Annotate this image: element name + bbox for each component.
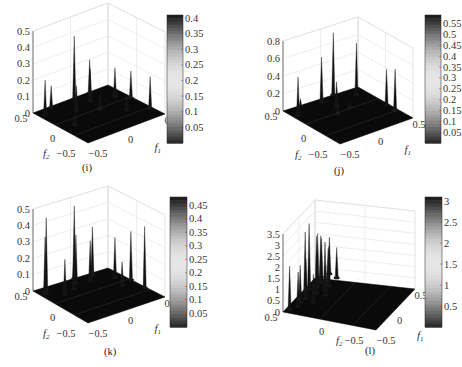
colorbar-tick-label: 0.5 (444, 301, 457, 312)
f2-tick-label: 0.5 (14, 113, 27, 124)
f2-axis-label: f2 (43, 147, 50, 161)
colorbar-i: 0.050.10.150.20.250.30.350.4 (167, 13, 203, 144)
colorbar-tick-label: 1 (444, 280, 449, 291)
colorbar-tick-label: 0.25 (443, 83, 461, 94)
f2-tick-label: 0.5 (264, 111, 277, 122)
colorbar-tick-label: 0.35 (443, 62, 461, 73)
z-tick-label: 0.1 (17, 91, 30, 102)
z-tick-label: 0.3 (17, 236, 30, 247)
f1-tick-label: −0.5 (88, 148, 107, 159)
z-tick-label: 0.5 (17, 26, 30, 37)
f2-tick-label: 0 (301, 133, 306, 144)
colorbar-tick-label: 0.5 (443, 29, 456, 40)
f2-axis-label: f2 (295, 148, 302, 162)
caption-j: (j) (334, 165, 344, 176)
z-tick-label: 0.2 (17, 253, 30, 264)
surface-floor (283, 278, 415, 330)
f1-tick-label: −0.5 (376, 335, 395, 346)
f2-tick-label: −0.5 (308, 149, 327, 160)
f1-axis-label: f1 (155, 322, 162, 336)
f1-tick-label: 0 (397, 315, 402, 326)
colorbar-k: 0.050.10.150.20.250.30.350.40.45 (170, 197, 207, 328)
z-tick-label: 0.5 (17, 204, 30, 215)
colorbar-tick-label: 0.15 (185, 91, 203, 102)
colorbar-tick-label: 0.35 (189, 227, 207, 238)
colorbar-tick-label: 2 (444, 238, 449, 249)
colorbar-tick-label: 0.25 (189, 254, 207, 265)
f2-tick-label: 0.5 (14, 291, 27, 302)
colorbar-tick-label: 0.45 (189, 200, 207, 211)
f1-axis-label: f1 (417, 329, 424, 343)
f2-tick-label: 0 (319, 326, 324, 337)
colorbar-tick-label: 0.2 (443, 94, 456, 105)
colorbar-tick-label: 2.5 (444, 217, 457, 228)
z-tick-label: 0.8 (267, 36, 280, 47)
colorbar-tick-label: 0.15 (443, 105, 461, 116)
colorbar-tick-label: 0.1 (443, 116, 456, 127)
colorbar-tick-label: 0.3 (443, 72, 456, 83)
f1-axis-label: f1 (155, 141, 162, 155)
caption-i: (i) (82, 162, 92, 173)
colorbar-tick-label: 0.1 (189, 294, 202, 305)
colorbar-tick-label: 3 (444, 196, 449, 207)
z-tick-label: 2 (275, 262, 280, 273)
caption-l: (l) (365, 345, 375, 356)
colorbar-tick-label: 0.25 (185, 59, 203, 70)
f2-tick-label: −0.5 (344, 335, 363, 346)
colorbar-tick-label: 0.4 (443, 51, 457, 62)
f2-tick-label: −0.5 (56, 148, 75, 159)
panel-l: 00.511.522.533.50.50−0.5−0.500.5f2f10.51… (264, 196, 457, 348)
figure-canvas: 00.10.20.30.40.50.50−0.5−0.500.5f2f10.05… (0, 0, 462, 367)
colorbar-tick-label: 0.1 (185, 106, 198, 117)
panel-i: 00.10.20.30.40.50.50−0.5−0.500.5f2f10.05… (14, 3, 203, 161)
colorbar-tick-label: 0.4 (189, 213, 203, 224)
colorbar-j: 0.050.10.150.20.250.30.350.40.450.50.55 (425, 15, 461, 144)
colorbar-tick-label: 0.35 (185, 28, 203, 39)
z-tick-label: 1 (275, 284, 280, 295)
f1-axis-label: f1 (405, 143, 412, 157)
f2-tick-label: 0.5 (264, 312, 277, 323)
z-tick-label: 0.2 (267, 88, 280, 99)
z-tick-label: 1.5 (267, 273, 280, 284)
panel-j: 00.20.40.60.80.50−0.5−0.500.5f2f10.050.1… (264, 15, 461, 162)
f2-tick-label: 0 (50, 312, 55, 323)
colorbar-tick-label: 0.4 (185, 13, 199, 24)
z-tick-label: 3.5 (267, 229, 280, 240)
colorbar-tick-label: 0.45 (443, 40, 461, 51)
colorbar-tick-label: 0.2 (185, 75, 198, 86)
colorbar-tick-label: 0.3 (185, 44, 198, 55)
caption-k: (k) (104, 346, 116, 357)
f2-axis-label: f2 (336, 334, 343, 348)
colorbar-tick-label: 0.15 (189, 281, 207, 292)
colorbar-tick-label: 0.05 (443, 127, 461, 138)
z-tick-label: 2.5 (267, 251, 280, 262)
f1-tick-label: −0.5 (88, 328, 107, 339)
f2-tick-label: −0.5 (56, 328, 75, 339)
f2-axis-label: f2 (43, 327, 50, 341)
z-tick-label: 0.4 (17, 42, 31, 53)
colorbar-tick-label: 0.05 (189, 308, 207, 319)
f1-tick-label: 0 (128, 134, 133, 145)
z-tick-label: 0.5 (267, 295, 280, 306)
colorbar-l: 0.511.522.53 (425, 196, 457, 328)
z-tick-label: 0.2 (17, 75, 30, 86)
z-tick-label: 0.3 (17, 58, 30, 69)
colorbar-tick-label: 1.5 (444, 259, 457, 270)
z-tick-label: 0.6 (267, 53, 280, 64)
f2-tick-label: 0 (50, 133, 55, 144)
panel-k: 00.10.20.30.40.50.50−0.5−0.500.5f2f10.05… (14, 186, 207, 341)
colorbar-tick-label: 0.3 (189, 240, 202, 251)
colorbar-tick-label: 0.55 (443, 18, 461, 29)
z-tick-label: 0.1 (17, 269, 30, 280)
z-tick-label: 0.4 (17, 220, 31, 231)
f1-tick-label: 0 (128, 315, 133, 326)
figure: 00.10.20.30.40.50.50−0.5−0.500.5f2f10.05… (0, 0, 462, 367)
colorbar-tick-label: 0.2 (189, 267, 202, 278)
colorbar-tick-label: 0.05 (185, 122, 203, 133)
z-tick-label: 0.4 (267, 71, 281, 82)
f1-tick-label: 0 (378, 136, 383, 147)
z-tick-label: 3 (275, 240, 280, 251)
f1-tick-label: 0.5 (412, 119, 425, 130)
f1-tick-label: −0.5 (340, 149, 359, 160)
